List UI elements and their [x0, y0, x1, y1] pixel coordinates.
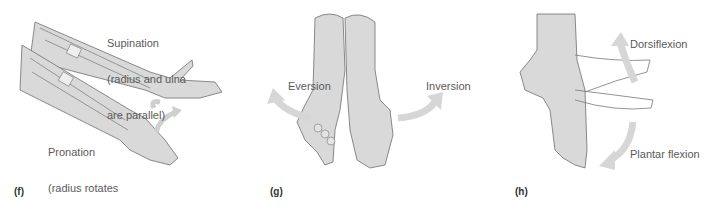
dorsiflexion-label: Dorsiflexion [630, 38, 687, 50]
supination-line-1: Supination [107, 37, 186, 49]
eversion-label: Eversion [288, 80, 331, 92]
supination-label: Supination (radius and ulna are parallel… [107, 13, 186, 145]
panel-label-h: (h) [515, 186, 528, 197]
panel-g-feet-frontal: Eversion Inversion (g) [235, 0, 475, 212]
ankle-illustration [475, 0, 714, 212]
plantar-flexion-label: Plantar flexion [630, 148, 700, 160]
inversion-label: Inversion [426, 80, 471, 92]
pronation-line-2: (radius rotates [48, 182, 118, 194]
panel-label-g: (g) [270, 186, 283, 197]
feet-illustration [235, 0, 475, 212]
pronation-label: Pronation (radius rotates over ulna) [48, 122, 118, 212]
supination-line-2: (radius and ulna [107, 73, 186, 85]
panel-h-foot-sagittal: Dorsiflexion Plantar flexion (h) [475, 0, 714, 212]
panel-f-forearm: Supination (radius and ulna are parallel… [0, 0, 235, 212]
supination-line-3: are parallel) [107, 109, 186, 121]
pronation-line-1: Pronation [48, 146, 118, 158]
panel-label-f: (f) [14, 186, 24, 197]
